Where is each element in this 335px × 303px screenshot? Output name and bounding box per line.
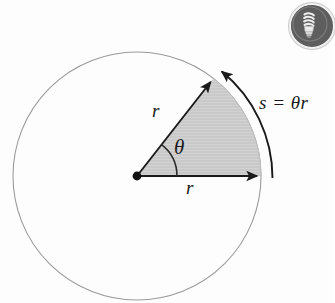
radial-radius-label: r <box>152 101 159 120</box>
cfl-lightbulb-badge[interactable] <box>289 3 335 49</box>
lightbulb-icon <box>291 5 329 43</box>
angle-theta-label: θ <box>174 137 184 158</box>
arc-length-formula-label: s = θr <box>259 93 308 112</box>
circle-center-dot <box>133 172 142 181</box>
horizontal-radius-label: r <box>186 178 193 197</box>
